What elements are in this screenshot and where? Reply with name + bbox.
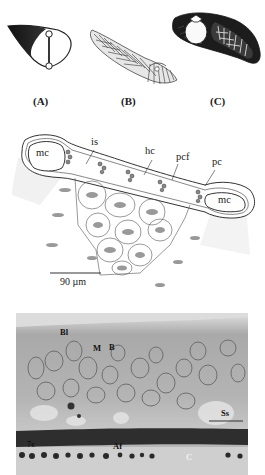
panel-c-shape [173,13,261,63]
label-pcf: pcf [176,151,189,162]
label-af: Af [113,441,122,451]
label-pc: pc [212,156,222,167]
label-mc-right: mc [218,194,231,205]
panel-a-label: (A) [33,95,48,107]
tissue-background [12,158,250,255]
panel-b-shape [90,30,177,84]
epithelial-cells [75,178,190,275]
label-c: C [186,452,192,462]
panel-c-label: (C) [210,95,225,107]
lamella-outline [22,135,255,218]
label-7c: 7c [27,439,35,449]
panel-b-label: (B) [121,95,136,107]
label-is: is [91,136,98,147]
label-mc-left: mc [36,147,49,158]
label-b: B [109,342,115,352]
scale-bar-label: 90 µm [60,276,86,287]
label-ss: Ss [221,408,229,418]
micrograph-image [16,313,248,475]
cell-nuclei [46,188,200,287]
label-hc: hc [145,145,155,156]
label-bl: Bl [60,327,68,337]
label-m: M [93,343,101,353]
panel-a-shape [8,25,71,69]
micrograph: Bl M B Ss 7c Af C [16,313,248,475]
